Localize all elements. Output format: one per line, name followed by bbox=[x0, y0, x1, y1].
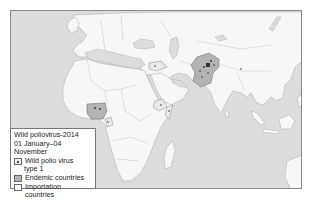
nigeria bbox=[87, 103, 107, 119]
sri-lanka bbox=[225, 111, 229, 117]
white-square-icon bbox=[14, 184, 22, 191]
grey-square-icon bbox=[14, 175, 22, 182]
map-legend: Wild poliovirus-2014 01 January–04 Novem… bbox=[10, 128, 96, 189]
legend-date-range: 01 January–04 November bbox=[14, 140, 92, 157]
legend-item-importation: Importation countries bbox=[14, 183, 92, 200]
legend-item-label: Importation countries bbox=[25, 183, 92, 200]
dot-square-icon bbox=[14, 158, 22, 165]
